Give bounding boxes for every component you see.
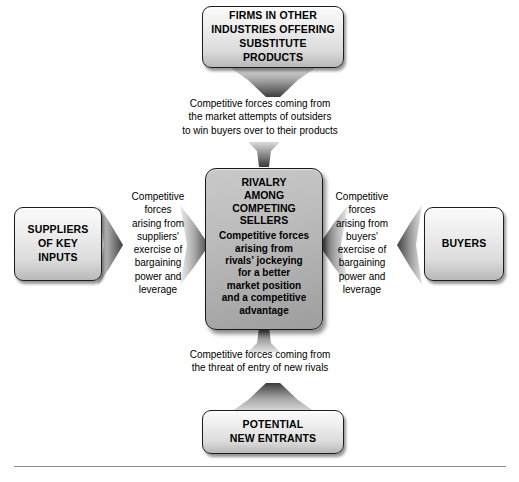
footer-divider <box>14 466 506 467</box>
node-suppliers-of-key-inputs[interactable]: SUPPLIERS OF KEY INPUTS <box>14 207 102 281</box>
node-substitute-products-label: FIRMS IN OTHER INDUSTRIES OFFERING SUBST… <box>203 9 343 64</box>
node-potential-new-entrants[interactable]: POTENTIAL NEW ENTRANTS <box>202 410 344 454</box>
caption-substitute-forces: Competitive forces coming from the marke… <box>158 97 362 137</box>
arrow-substitutes-to-caption-top <box>228 66 318 98</box>
caption-buyer-bargaining-power: Competitive forces arising from buyers' … <box>322 190 402 296</box>
caption-supplier-bargaining-power: Competitive forces arising from supplier… <box>118 190 198 296</box>
arrow-caption-top-to-center <box>248 142 280 168</box>
center-box-title: RIVALRY AMONG COMPETING SELLERS <box>232 176 296 227</box>
center-box-body: Competitive forces arising from rivals' … <box>219 230 309 317</box>
node-substitute-products[interactable]: FIRMS IN OTHER INDUSTRIES OFFERING SUBST… <box>202 6 344 68</box>
caption-threat-of-new-entry: Competitive forces coming from the threa… <box>158 348 362 375</box>
node-buyers-label: BUYERS <box>437 237 492 251</box>
node-potential-new-entrants-label: POTENTIAL NEW ENTRANTS <box>225 418 321 446</box>
node-suppliers-label: SUPPLIERS OF KEY INPUTS <box>23 223 94 265</box>
five-forces-diagram: FIRMS IN OTHER INDUSTRIES OFFERING SUBST… <box>0 0 519 482</box>
node-rivalry-among-competing-sellers[interactable]: RIVALRY AMONG COMPETING SELLERS Competit… <box>205 168 323 330</box>
node-buyers[interactable]: BUYERS <box>424 207 504 281</box>
